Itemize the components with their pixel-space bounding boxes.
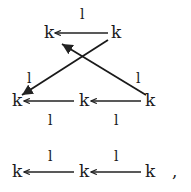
seq-edge-label-left: l — [48, 148, 53, 164]
edge-label-bottom-right: l — [114, 112, 119, 128]
seq-node-center: k — [79, 161, 90, 181]
edge-label-right: l — [136, 70, 141, 86]
edge-label-top: l — [80, 6, 85, 22]
node-top-right: k — [111, 22, 122, 42]
seq-node-left: k — [12, 161, 23, 181]
edge-label-bottom-left: l — [48, 112, 53, 128]
commutative-diagram: l k k l l k k k l l l l k k k , — [0, 0, 191, 192]
node-mid-center: k — [79, 90, 90, 110]
node-mid-left: k — [12, 90, 23, 110]
seq-node-right: k — [145, 161, 156, 181]
node-mid-right: k — [145, 90, 156, 110]
edge-label-left: l — [27, 70, 32, 86]
seq-edge-label-right: l — [114, 148, 119, 164]
node-top-left: k — [44, 22, 55, 42]
trailing-comma: , — [172, 161, 177, 181]
arrow-diagonal-topright-to-midleft — [22, 40, 108, 95]
arrow-diagonal-midright-to-topleft — [62, 44, 146, 95]
